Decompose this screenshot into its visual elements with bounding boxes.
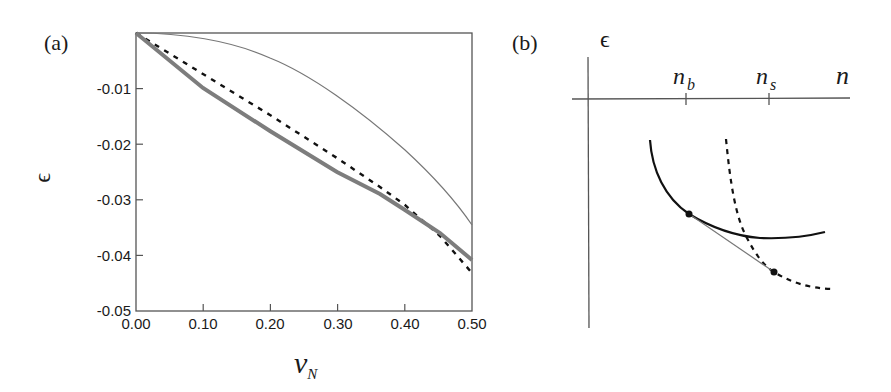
b-tick-label-nb: nb bbox=[673, 63, 695, 93]
b-common-tangent bbox=[689, 214, 774, 272]
figure: (a) -0.01 -0.02 -0.03 -0.04 -0.05 0.00 0… bbox=[0, 0, 891, 392]
y-tick-label: -0.02 bbox=[97, 136, 131, 153]
panel-a: (a) -0.01 -0.02 -0.03 -0.04 -0.05 0.00 0… bbox=[29, 30, 487, 382]
x-axis-ticks bbox=[203, 304, 405, 311]
b-y-axis-label: ϵ bbox=[600, 26, 610, 52]
y-tick-label: -0.01 bbox=[97, 80, 131, 97]
y-axis-tick-labels: -0.01 -0.02 -0.03 -0.04 -0.05 bbox=[97, 80, 131, 319]
x-tick-label: 0.00 bbox=[121, 315, 150, 332]
panel-b-label: (b) bbox=[512, 30, 538, 55]
x-tick-label: 0.30 bbox=[323, 315, 352, 332]
y-tick-label: -0.03 bbox=[97, 191, 131, 208]
b-y-axis bbox=[588, 57, 589, 328]
y-axis-ticks bbox=[136, 89, 143, 256]
x-tick-label: 0.10 bbox=[188, 315, 217, 332]
y-tick-label: -0.04 bbox=[97, 247, 131, 264]
b-tangent-point-ns bbox=[771, 269, 778, 276]
thin-solid-curve bbox=[136, 33, 472, 225]
b-dashed-curve bbox=[726, 139, 831, 289]
panel-a-label: (a) bbox=[44, 30, 68, 55]
b-tick-label-ns: ns bbox=[756, 63, 776, 93]
x-axis-tick-labels: 0.00 0.10 0.20 0.30 0.40 0.50 bbox=[121, 315, 486, 332]
b-x-axis bbox=[572, 98, 850, 99]
b-x-axis-label: n bbox=[836, 61, 849, 90]
b-solid-curve bbox=[650, 140, 825, 238]
x-axis-label: νN bbox=[294, 346, 318, 382]
x-tick-label: 0.40 bbox=[390, 315, 419, 332]
y-axis-label: ϵ bbox=[29, 173, 55, 183]
panel-b: (b) ϵ nb ns n bbox=[512, 26, 850, 328]
thick-gray-curve bbox=[136, 33, 472, 260]
b-tangent-point-nb bbox=[686, 211, 693, 218]
x-tick-label: 0.50 bbox=[457, 315, 486, 332]
x-tick-label: 0.20 bbox=[255, 315, 284, 332]
